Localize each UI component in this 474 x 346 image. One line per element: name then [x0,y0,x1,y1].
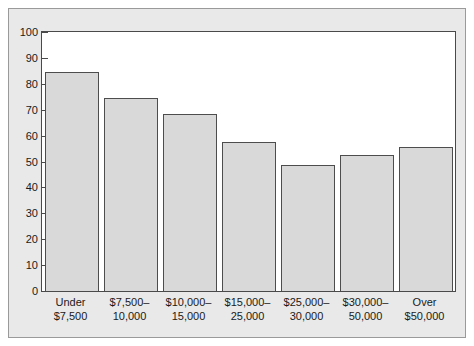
y-axis-tick-mark [42,291,48,292]
bar [104,98,158,291]
x-axis-tick-label: Under $7,500 [41,295,100,323]
x-axis-tick-label: $15,000– 25,000 [218,295,277,323]
y-axis-tick-label: 60 [8,130,38,141]
bar [163,114,217,291]
bar [222,142,276,291]
bar [281,165,335,291]
y-axis-tick-label: 100 [8,27,38,38]
y-axis-tick-label: 40 [8,182,38,193]
x-axis-labels: Under $7,500$7,500– 10,000$10,000– 15,00… [41,295,456,337]
y-axis-tick-label: 20 [8,234,38,245]
y-axis-tick-label: 50 [8,156,38,167]
y-axis-tick-label: 70 [8,104,38,115]
y-axis-tick-label: 30 [8,208,38,219]
y-axis-tick-label: 10 [8,260,38,271]
chart-figure: 0102030405060708090100 Under $7,500$7,50… [8,8,466,338]
y-axis-tick-label: 0 [8,286,38,297]
plot-frame: 0102030405060708090100 [41,31,456,292]
x-axis-tick-label: $30,000– 50,000 [336,295,395,323]
bar [399,147,453,291]
bar [45,72,99,291]
x-axis-tick-label: Over $50,000 [395,295,454,323]
y-axis-tick-label: 90 [8,52,38,63]
x-axis-tick-label: $10,000– 15,000 [159,295,218,323]
bar-series [42,32,455,291]
y-axis-tick-label: 80 [8,78,38,89]
x-axis-tick-label: $25,000– 30,000 [277,295,336,323]
bar [340,155,394,291]
x-axis-tick-label: $7,500– 10,000 [100,295,159,323]
